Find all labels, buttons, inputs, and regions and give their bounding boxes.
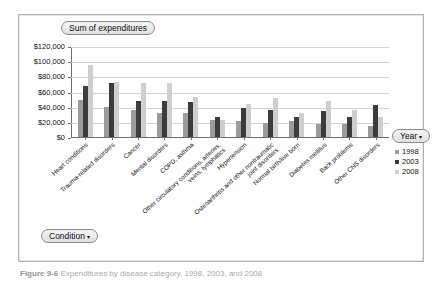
bar-2008[interactable] xyxy=(167,83,172,137)
bar-group xyxy=(72,47,98,137)
plot-area: $120,000$100,000$80,000$60,000$40,000$20… xyxy=(71,47,389,138)
y-axis-tick-label: $100,000 xyxy=(5,58,65,66)
x-axis-tick-mark xyxy=(217,137,218,140)
x-axis-category-label: Trauma-related disorders xyxy=(58,141,115,193)
x-axis-tick-mark xyxy=(191,137,192,140)
figure-number: Figure 9-6 xyxy=(20,269,58,278)
bar-groups xyxy=(72,47,389,137)
legend-field-button-year[interactable]: Year ▾ xyxy=(392,129,430,143)
category-field-button-condition[interactable]: Condition ▾ xyxy=(41,229,98,243)
x-axis-line xyxy=(71,137,389,138)
bar-group xyxy=(283,47,309,137)
y-axis-tick-label: $20,000 xyxy=(5,119,65,127)
bar-2008[interactable] xyxy=(220,120,225,137)
y-axis-tick-mark xyxy=(68,77,71,78)
x-axis-tick-mark xyxy=(244,137,245,140)
x-axis-tick-mark xyxy=(376,137,377,140)
y-axis-tick-mark xyxy=(68,138,71,139)
y-axis-tick-label: $120,000 xyxy=(5,43,65,51)
legend-label: 2008 xyxy=(402,167,419,176)
x-axis-tick-mark xyxy=(349,137,350,140)
category-field-label: Condition xyxy=(49,231,85,241)
bar-2008[interactable] xyxy=(273,98,278,137)
bar-2008[interactable] xyxy=(141,83,146,137)
y-axis-tick-label: $60,000 xyxy=(5,89,65,97)
y-axis-tick-mark xyxy=(68,93,71,94)
y-axis-tick-mark xyxy=(68,108,71,109)
legend-field-label: Year xyxy=(400,131,417,141)
legend-swatch xyxy=(395,170,399,174)
bar-2008[interactable] xyxy=(326,101,331,137)
bar-2008[interactable] xyxy=(299,113,304,137)
x-axis-tick-mark xyxy=(297,137,298,140)
legend-label: 2003 xyxy=(402,157,419,166)
figure-caption: Figure 9-6 Expenditures by disease categ… xyxy=(20,268,440,279)
legend-swatch xyxy=(395,150,399,154)
bar-group xyxy=(151,47,177,137)
bar-2008[interactable] xyxy=(193,97,198,137)
bar-group xyxy=(363,47,389,137)
bar-group xyxy=(231,47,257,137)
bar-group xyxy=(310,47,336,137)
x-axis-tick-mark xyxy=(112,137,113,140)
bar-2008[interactable] xyxy=(114,82,119,137)
legend-entries: 199820032008 xyxy=(392,147,430,176)
value-field-button-sum-of-expenditures[interactable]: Sum of expenditures xyxy=(61,21,155,35)
bar-group xyxy=(257,47,283,137)
x-axis-tick-mark xyxy=(270,137,271,140)
bar-group xyxy=(98,47,124,137)
chevron-down-icon: ▾ xyxy=(419,134,422,140)
bar-group xyxy=(178,47,204,137)
legend-label: 1998 xyxy=(402,147,419,156)
x-axis-tick-mark xyxy=(164,137,165,140)
x-axis-tick-mark xyxy=(138,137,139,140)
screenshot-root: Sum of expenditures $120,000$100,000$80,… xyxy=(0,0,441,281)
legend-entry: 1998 xyxy=(395,147,430,156)
y-axis-tick-label: $0 xyxy=(5,134,65,142)
pivot-chart-frame: Sum of expenditures $120,000$100,000$80,… xyxy=(18,14,424,262)
bar-group xyxy=(336,47,362,137)
legend: Year ▾ 199820032008 xyxy=(392,125,430,177)
value-field-label: Sum of expenditures xyxy=(69,23,147,33)
chevron-down-icon: ▾ xyxy=(87,234,90,240)
bar-2008[interactable] xyxy=(352,110,357,137)
legend-entry: 2008 xyxy=(395,167,430,176)
bar-2008[interactable] xyxy=(378,117,383,137)
bar-group xyxy=(204,47,230,137)
x-axis-category-label: Cancer xyxy=(122,141,142,160)
bar-group xyxy=(125,47,151,137)
x-axis-tick-mark xyxy=(85,137,86,140)
y-axis-tick-label: $40,000 xyxy=(5,104,65,112)
figure-caption-text: Expenditures by disease category, 1998, … xyxy=(60,269,262,278)
y-axis-tick-mark xyxy=(68,123,71,124)
y-axis-tick-label: $80,000 xyxy=(5,73,65,81)
bar-2008[interactable] xyxy=(246,104,251,137)
legend-entry: 2003 xyxy=(395,157,430,166)
legend-swatch xyxy=(395,160,399,164)
y-axis-tick-mark xyxy=(68,62,71,63)
x-axis-tick-mark xyxy=(323,137,324,140)
y-axis-tick-mark xyxy=(68,47,71,48)
bar-2008[interactable] xyxy=(88,65,93,137)
